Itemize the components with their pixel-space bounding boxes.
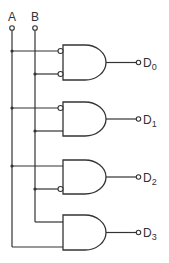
output-label-d3: D3 — [143, 226, 157, 242]
output-label-d2: D2 — [143, 171, 157, 187]
output-terminal-d3 — [136, 230, 140, 234]
junction-dot — [10, 164, 13, 167]
and-gate-body — [63, 102, 106, 136]
and-gate-body — [63, 215, 106, 250]
input-terminal-a — [10, 26, 15, 31]
output-terminal-d1 — [136, 117, 140, 121]
inverter-bubble-b — [58, 187, 63, 192]
decoder-schematic: A B D0 D1 D2 — [0, 0, 169, 263]
and-gate-d1: D1 — [10, 102, 156, 136]
input-terminal-b — [33, 26, 38, 31]
junction-dot — [33, 72, 36, 75]
and-gate-d3: D3 — [12, 215, 157, 250]
and-gate-body — [63, 45, 106, 80]
input-label-a: A — [8, 10, 16, 24]
inverter-bubble-a — [58, 49, 63, 54]
junction-dot — [10, 106, 13, 109]
and-gate-d2: D2 — [10, 160, 156, 194]
inverter-bubble-b — [58, 72, 63, 77]
inverter-bubble-a — [58, 106, 63, 111]
and-gate-body — [63, 160, 106, 194]
input-label-b: B — [31, 10, 39, 24]
junction-dot — [10, 49, 13, 52]
output-terminal-d2 — [136, 175, 140, 179]
output-terminal-d0 — [136, 60, 140, 64]
and-gate-d0: D0 — [10, 45, 156, 80]
junction-dot — [33, 129, 36, 132]
output-label-d0: D0 — [143, 56, 157, 72]
junction-dot — [33, 187, 36, 190]
output-label-d1: D1 — [143, 113, 157, 129]
